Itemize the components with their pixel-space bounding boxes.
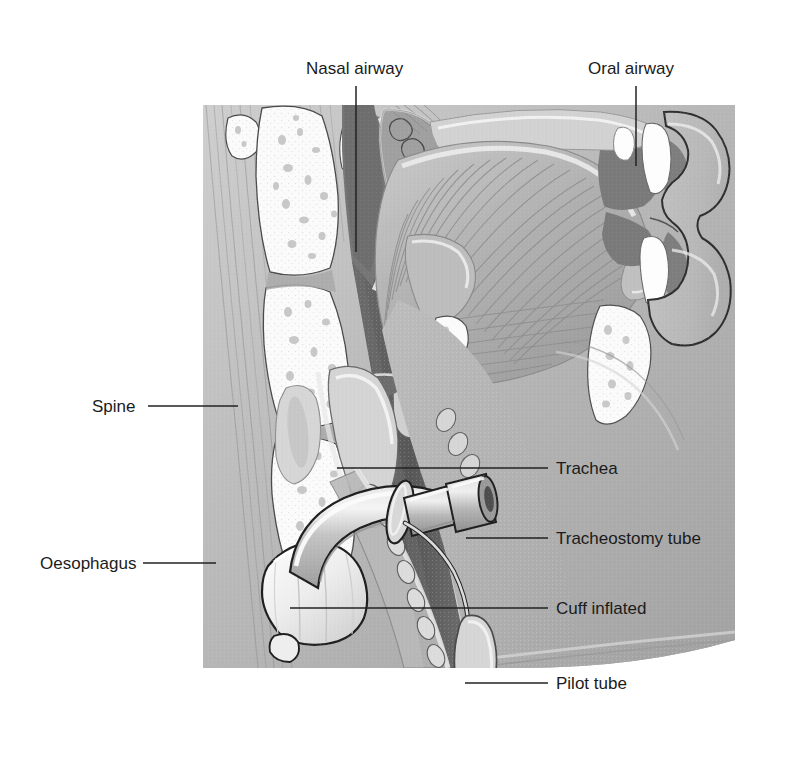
label-nasal-airway: Nasal airway — [306, 59, 404, 78]
label-spine: Spine — [92, 397, 135, 416]
illustration-grain-overlay — [195, 100, 743, 680]
label-oral-airway: Oral airway — [588, 59, 674, 78]
label-pilot-tube: Pilot tube — [556, 674, 627, 693]
label-trachea: Trachea — [556, 459, 618, 478]
label-oesophagus: Oesophagus — [40, 554, 136, 573]
label-cuff-inflated: Cuff inflated — [556, 599, 646, 618]
anatomical-illustration-figure: Nasal airway Oral airway Spine Oesophagu… — [0, 0, 788, 783]
label-tracheostomy-tube: Tracheostomy tube — [556, 529, 701, 548]
tracheostomy-sagittal-diagram: Nasal airway Oral airway Spine Oesophagu… — [0, 0, 788, 783]
